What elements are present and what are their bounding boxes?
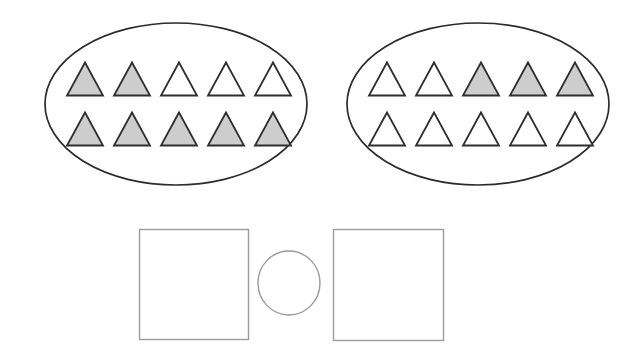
left-answer-box[interactable] <box>139 229 248 339</box>
worksheet-page <box>0 0 633 354</box>
operator-circle[interactable] <box>258 251 320 315</box>
right-answer-box[interactable] <box>333 229 443 340</box>
